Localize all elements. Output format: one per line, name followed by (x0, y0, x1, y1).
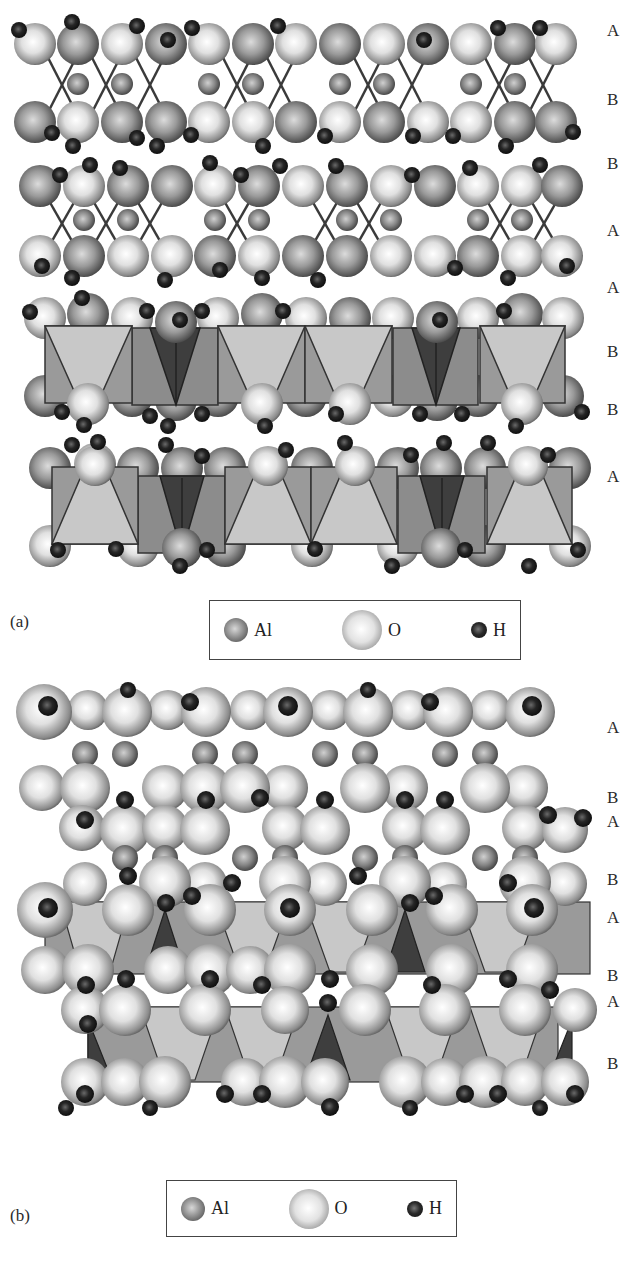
layer-label: A (607, 467, 619, 487)
layer-label: B (607, 342, 618, 362)
legend-label-h: H (429, 1198, 442, 1219)
legend-item-al: Al (181, 1197, 229, 1221)
legend-panel-b: Al O H (166, 1180, 457, 1237)
legend-panel-a: Al O H (209, 600, 521, 660)
layer-label: A (607, 221, 619, 241)
panel-b: A B A B A B A B Al O H (b) (0, 670, 638, 1263)
layer-label: B (607, 870, 618, 890)
legend-label-o: O (388, 620, 401, 641)
legend-label-h: H (493, 620, 506, 641)
o-atoms-row-2 (14, 101, 577, 143)
legend-label-al: Al (211, 1198, 229, 1219)
layer-label: A (607, 21, 619, 41)
o-sphere-icon (342, 610, 382, 650)
layer-label: B (607, 400, 618, 420)
layer-label: B (607, 966, 618, 986)
legend-item-h: H (407, 1198, 442, 1219)
o-sphere-icon (289, 1189, 329, 1229)
al-atoms-b-row-1 (72, 741, 498, 767)
legend-item-al: Al (224, 618, 272, 642)
legend-label-o: O (335, 1198, 348, 1219)
o-atoms-row-3 (19, 165, 583, 207)
h-sphere-icon (407, 1201, 423, 1217)
layer-label: B (607, 788, 618, 808)
al-atoms-row-1 (67, 73, 526, 95)
polyhedral-layer-2 (29, 434, 591, 574)
o-atoms-row-4 (19, 235, 583, 277)
panel-label-a: (a) (10, 612, 29, 632)
layer-label: B (607, 90, 618, 110)
layer-label: A (607, 908, 619, 928)
layer-label: A (607, 992, 619, 1012)
layer-label: A (607, 278, 619, 298)
panel-a-structure (0, 0, 600, 580)
legend-item-h: H (471, 620, 506, 641)
panel-a: A B B A A B B A Al O H (a) (0, 0, 638, 640)
layer-label: B (607, 154, 618, 174)
al-sphere-icon (181, 1197, 205, 1221)
layer-label: A (607, 718, 619, 738)
polyhedral-layer-1 (22, 290, 590, 434)
al-atoms-row-2 (73, 209, 533, 231)
legend-item-o: O (289, 1189, 348, 1229)
al-sphere-icon (224, 618, 248, 642)
legend-label-al: Al (254, 620, 272, 641)
layer-label: B (607, 1054, 618, 1074)
layer-label: A (607, 812, 619, 832)
panel-label-b: (b) (10, 1206, 30, 1226)
o-atoms-b-row-2 (19, 763, 588, 855)
h-sphere-icon (471, 622, 487, 638)
panel-b-structure (0, 670, 600, 1170)
legend-item-o: O (342, 610, 401, 650)
